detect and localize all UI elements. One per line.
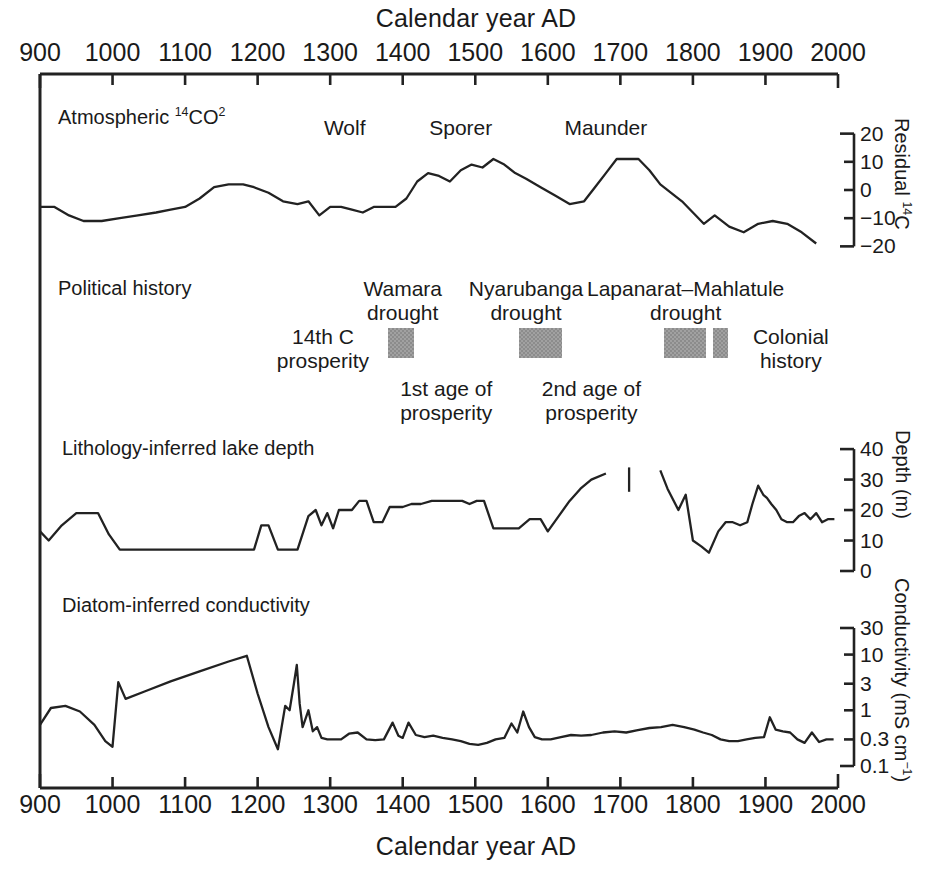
conductivity-series-line bbox=[40, 656, 834, 749]
carbon-label-subscript: 2 bbox=[219, 105, 226, 119]
conductivity-y-tick-label-2: 3 bbox=[860, 672, 872, 696]
solar-minimum-label-wolf: Wolf bbox=[324, 116, 366, 140]
annotation-line: drought bbox=[587, 301, 784, 325]
annotation-line: prosperity bbox=[277, 349, 369, 373]
political-annotation-14th-c-prosperity: 14th Cprosperity bbox=[277, 325, 369, 372]
annotation-line: 1st age of bbox=[400, 377, 492, 401]
figure-root: Calendar year AD 90010001100120013001400… bbox=[0, 0, 952, 877]
panel-label-atmospheric-14co2: Atmospheric 14CO2 bbox=[58, 105, 225, 129]
carbon-series-line bbox=[40, 159, 816, 244]
depth-series-segment-2 bbox=[660, 470, 834, 552]
drought-bar-nyarubanga bbox=[519, 328, 563, 358]
annotation-line: drought bbox=[363, 301, 442, 325]
carbon-label-isotope: 14 bbox=[175, 105, 189, 119]
political-annotation-2nd-age-of-prosperity: 2nd age ofprosperity bbox=[542, 377, 641, 424]
annotation-line: prosperity bbox=[542, 401, 641, 425]
depth-y-tick-label-0: 40 bbox=[860, 437, 883, 461]
drought-bar-wamara bbox=[388, 328, 413, 358]
carbon-label-main: CO bbox=[189, 106, 219, 128]
annotation-line: history bbox=[753, 349, 829, 373]
panel-label-lake-depth: Lithology-inferred lake depth bbox=[62, 437, 314, 460]
carbon-y-tick-label-0: 20 bbox=[860, 122, 883, 146]
solar-minimum-label-maunder: Maunder bbox=[564, 116, 647, 140]
annotation-line: Nyarubanga bbox=[469, 277, 583, 301]
political-annotation-lapanarat-mahlatule-drought: Lapanarat–Mahlatuledrought bbox=[587, 277, 784, 324]
panel-label-political-history: Political history bbox=[58, 277, 191, 300]
depth-series-segment-1 bbox=[40, 474, 606, 550]
carbon-label-prefix: Atmospheric bbox=[58, 106, 175, 128]
annotation-line: 14th C bbox=[277, 325, 369, 349]
carbon-y-tick-label-2: 0 bbox=[860, 178, 872, 202]
conductivity-unit-close: ) bbox=[891, 776, 913, 783]
carbon-y-tick-label-1: 10 bbox=[860, 150, 883, 174]
carbon-y-tick-label-3: −10 bbox=[860, 206, 896, 230]
y-axis-label-conductivity: Conductivity (mS cm−1) bbox=[890, 578, 914, 782]
conductivity-y-tick-label-1: 10 bbox=[860, 643, 883, 667]
depth-y-tick-label-2: 20 bbox=[860, 498, 883, 522]
conductivity-unit-exponent: −1 bbox=[900, 761, 914, 775]
conductivity-y-tick-label-3: 1 bbox=[860, 698, 872, 722]
annotation-line: Wamara bbox=[363, 277, 442, 301]
conductivity-y-tick-label-0: 30 bbox=[860, 616, 883, 640]
political-annotation-nyarubanga-drought: Nyarubangadrought bbox=[469, 277, 583, 324]
annotation-line: prosperity bbox=[400, 401, 492, 425]
annotation-line: Colonial bbox=[753, 325, 829, 349]
residual-prefix: Residual bbox=[891, 118, 913, 201]
drought-bar-lapanarat-mahlatule bbox=[664, 328, 706, 358]
political-annotation-colonial-history: Colonialhistory bbox=[753, 325, 829, 372]
political-annotation-1st-age-of-prosperity: 1st age ofprosperity bbox=[400, 377, 492, 424]
depth-y-tick-label-1: 30 bbox=[860, 468, 883, 492]
carbon-y-tick-label-4: −20 bbox=[860, 234, 896, 258]
drought-bar-late-19th-century bbox=[713, 328, 728, 358]
residual-isotope: 14 bbox=[900, 201, 914, 215]
depth-y-tick-label-4: 0 bbox=[860, 559, 872, 583]
panel-label-conductivity: Diatom-inferred conductivity bbox=[62, 594, 310, 617]
conductivity-y-tick-label-5: 0.1 bbox=[860, 754, 889, 778]
annotation-line: 2nd age of bbox=[542, 377, 641, 401]
solar-minimum-label-sporer: Sporer bbox=[429, 116, 492, 140]
annotation-line: Lapanarat–Mahlatule bbox=[587, 277, 784, 301]
y-axis-label-depth: Depth (m) bbox=[891, 430, 914, 519]
political-annotation-wamara-drought: Wamaradrought bbox=[363, 277, 442, 324]
conductivity-unit-main: Conductivity (mS cm bbox=[891, 578, 913, 761]
depth-y-tick-label-3: 10 bbox=[860, 529, 883, 553]
conductivity-y-tick-label-4: 0.3 bbox=[860, 727, 889, 751]
annotation-line: drought bbox=[469, 301, 583, 325]
